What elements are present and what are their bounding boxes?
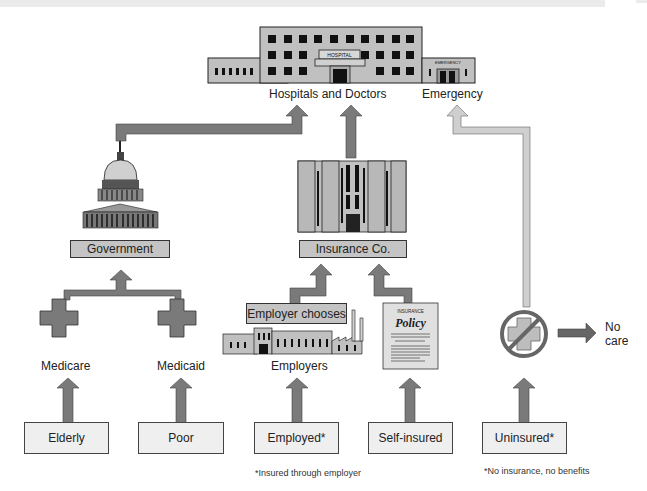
medicare-cross-icon: [40, 299, 78, 337]
arrow-employed-to-employers: [286, 378, 308, 423]
emergency-sign: EMERGENCY: [435, 60, 461, 65]
office-building-icon: [298, 161, 406, 232]
emergency-label: Emergency: [422, 87, 483, 101]
arrow-uninsured-to-emergency: [447, 105, 530, 307]
source-box-uninsured: Uninsured*: [482, 422, 567, 454]
uninsured-label: Uninsured*: [495, 431, 554, 445]
source-box-employed: Employed*: [254, 422, 339, 454]
arrow-insurance-to-hospitals: [340, 105, 362, 158]
footnote-employed: *Insured through employer: [255, 468, 361, 478]
arrow-policy-to-insurance: [368, 264, 412, 307]
source-box-poor: Poor: [138, 422, 224, 454]
arrow-self-insured-to-policy: [399, 378, 421, 423]
no-care-line2: care: [605, 334, 628, 348]
no-care-icon: [502, 312, 546, 356]
government-label: Government: [87, 242, 153, 256]
employer-chooses-box: Employer chooses: [246, 303, 347, 324]
arrow-uninsured-to-no-care: [513, 378, 535, 423]
medicaid-cross-icon: [158, 299, 196, 337]
medicare-label: Medicare: [41, 359, 90, 373]
insurance-co-box: Insurance Co.: [299, 240, 407, 258]
hospitals-doctors-label: Hospitals and Doctors: [269, 87, 386, 101]
capitol-icon: [83, 141, 158, 228]
government-box: Government: [70, 240, 170, 258]
policy-small-title: INSURANCE: [397, 309, 424, 314]
no-care-line1: No: [605, 320, 628, 334]
elderly-label: Elderly: [48, 431, 85, 445]
medicaid-label: Medicaid: [157, 359, 205, 373]
insurance-co-label: Insurance Co.: [316, 242, 391, 256]
employer-chooses-label: Employer chooses: [247, 307, 346, 321]
employed-label: Employed*: [267, 431, 325, 445]
poor-label: Poor: [168, 431, 193, 445]
source-box-elderly: Elderly: [24, 422, 109, 454]
arrow-elderly-to-medicare: [57, 378, 79, 423]
employers-label: Employers: [271, 359, 328, 373]
arrow-to-no-care: [558, 323, 596, 343]
source-box-self-insured: Self-insured: [368, 422, 453, 454]
self-insured-label: Self-insured: [378, 431, 442, 445]
hospital-sign: HOSPITAL: [327, 52, 352, 58]
footnote-uninsured: *No insurance, no benefits: [484, 466, 590, 476]
policy-title: Policy: [395, 316, 426, 330]
arrow-government-to-hospitals: [116, 105, 308, 141]
arrow-poor-to-medicaid: [170, 378, 192, 423]
no-care-label: No care: [605, 320, 628, 348]
arrow-programs-to-government: [64, 270, 181, 300]
arrow-employer-to-insurance: [290, 264, 332, 304]
